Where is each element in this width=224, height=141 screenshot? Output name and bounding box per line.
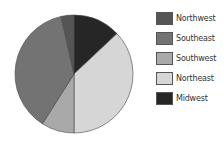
legend-item-northwest: Northwest [156,8,216,28]
legend-swatch [156,32,173,45]
legend-item-southeast: Southeast [156,28,216,48]
legend-item-southwest: Southwest [156,48,216,68]
legend-item-northeast: Northeast [156,68,216,88]
legend-item-midwest: Midwest [156,88,216,108]
legend-swatch [156,52,173,65]
legend-label: Northeast [176,74,214,83]
legend-label: Southwest [176,54,216,63]
legend: Northwest Southeast Southwest Northeast … [156,8,216,108]
legend-label: Midwest [176,94,208,103]
legend-swatch [156,92,173,105]
legend-label: Northwest [176,14,215,23]
legend-label: Southeast [176,34,215,43]
legend-swatch [156,12,173,25]
pie-chart [0,0,150,141]
legend-swatch [156,72,173,85]
